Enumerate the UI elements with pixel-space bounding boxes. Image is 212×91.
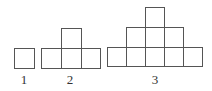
figure-2 (42, 29, 101, 69)
square-cell (165, 48, 184, 67)
square-cell (165, 28, 184, 48)
figure-label-2: 2 (67, 72, 74, 87)
square-cell (146, 48, 165, 67)
square-cell (146, 28, 165, 48)
square-cell (15, 49, 35, 69)
square-cell (127, 28, 146, 48)
square-cell (62, 49, 82, 69)
figure-label-3: 3 (152, 72, 159, 87)
figure-label-1: 1 (21, 72, 28, 87)
square-cell (108, 48, 127, 67)
square-cell (62, 29, 82, 49)
figure-1 (15, 49, 35, 69)
square-cell (146, 8, 165, 28)
figure-3 (108, 8, 203, 67)
square-cell (82, 49, 101, 69)
square-pattern-diagram: 1 2 3 (0, 0, 212, 91)
square-cell (184, 48, 203, 67)
square-cell (127, 48, 146, 67)
square-cell (42, 49, 62, 69)
